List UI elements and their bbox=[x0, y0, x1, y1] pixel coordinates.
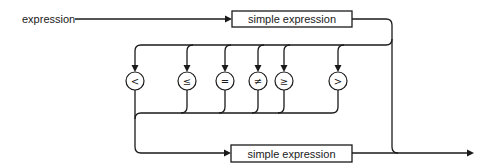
svg-text:>: > bbox=[334, 76, 342, 87]
bottom-box-label: simple expression bbox=[247, 148, 335, 160]
drop-eq bbox=[225, 45, 231, 66]
operator-less-or-equal: ≤ bbox=[178, 72, 196, 90]
operator-equal: = bbox=[216, 72, 234, 90]
operator-greater-than: > bbox=[329, 72, 347, 90]
top-box-label: simple expression bbox=[248, 13, 336, 25]
svg-text:≥: ≥ bbox=[280, 76, 288, 87]
syntax-diagram: expression simple expression simple expr… bbox=[0, 0, 498, 168]
arrow-icon bbox=[224, 150, 231, 157]
drop-le bbox=[187, 45, 193, 66]
operator-less-than: < bbox=[126, 72, 144, 90]
operator-greater-or-equal: ≥ bbox=[275, 72, 293, 90]
exit-arrow-icon bbox=[467, 150, 474, 157]
drop-ne bbox=[258, 45, 264, 66]
svg-text:<: < bbox=[131, 76, 139, 87]
bypass-line bbox=[352, 19, 468, 153]
svg-text:≠: ≠ bbox=[254, 76, 262, 87]
arrow-icon bbox=[225, 16, 232, 23]
drop-ge bbox=[284, 45, 290, 66]
top-bus bbox=[135, 39, 392, 66]
svg-text:≤: ≤ bbox=[183, 76, 191, 87]
diagram-title: expression bbox=[22, 13, 75, 25]
to-bottom-box-line bbox=[135, 90, 225, 153]
drop-gt bbox=[338, 45, 344, 66]
lower-bus bbox=[135, 90, 338, 119]
operator-not-equal: ≠ bbox=[249, 72, 267, 90]
svg-text:=: = bbox=[221, 76, 229, 87]
